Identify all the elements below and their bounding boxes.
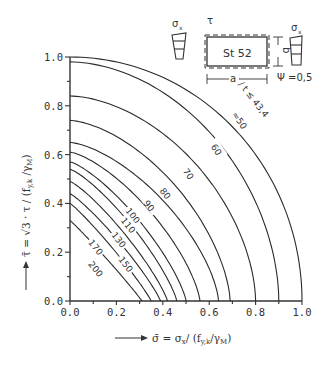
svg-text:τ: τ bbox=[207, 15, 213, 26]
svg-text:σ: σ bbox=[172, 18, 179, 29]
arrow-right-icon bbox=[141, 335, 148, 341]
svg-text:a: a bbox=[230, 73, 236, 84]
x-tick-label: 0.2 bbox=[107, 306, 126, 318]
svg-text:St 52: St 52 bbox=[223, 47, 252, 60]
y-axis-label: τ̄ = √3 · τ / (fy,k /γM) bbox=[20, 154, 34, 290]
left-stress-diagram-icon: σ x bbox=[172, 18, 186, 59]
svg-text:τ̄ = √3 · τ / (fy,k /γM): τ̄ = √3 · τ / (fy,k /γM) bbox=[20, 154, 34, 257]
curve-labels: b / t ≤ 43,4≈506070809010011013015017020… bbox=[86, 68, 275, 279]
y-tick-label: 0.8 bbox=[44, 100, 63, 112]
x-tick-label: 0.0 bbox=[61, 306, 80, 318]
svg-text:Ψ =0,5: Ψ =0,5 bbox=[277, 72, 312, 83]
y-tick-label: 1.0 bbox=[44, 51, 63, 63]
y-tick-label: 0.4 bbox=[44, 197, 63, 209]
y-tick-label: 0.6 bbox=[44, 149, 63, 161]
svg-text:σ: σ bbox=[291, 22, 298, 33]
svg-text:σ̄ = σx/ (fy,k/γM): σ̄ = σx/ (fy,k/γM) bbox=[152, 332, 231, 346]
arrow-up-icon bbox=[23, 261, 29, 268]
y-tick-label: 0.0 bbox=[44, 295, 63, 307]
interaction-chart: 0.00.20.40.60.81.00.00.20.40.60.81.0 b /… bbox=[0, 0, 326, 366]
curve-label: ≈50 bbox=[230, 110, 249, 132]
x-tick-label: 0.4 bbox=[153, 306, 172, 318]
x-tick-label: 0.8 bbox=[246, 306, 265, 318]
svg-text:x: x bbox=[298, 28, 302, 35]
x-tick-label: 1.0 bbox=[293, 306, 312, 318]
x-tick-label: 0.6 bbox=[200, 306, 219, 318]
svg-text:x: x bbox=[179, 24, 183, 31]
curve-bt-80 bbox=[70, 142, 219, 301]
x-axis-label: σ̄ = σx/ (fy,k/γM) bbox=[115, 332, 231, 346]
y-tick-label: 0.2 bbox=[44, 246, 63, 258]
